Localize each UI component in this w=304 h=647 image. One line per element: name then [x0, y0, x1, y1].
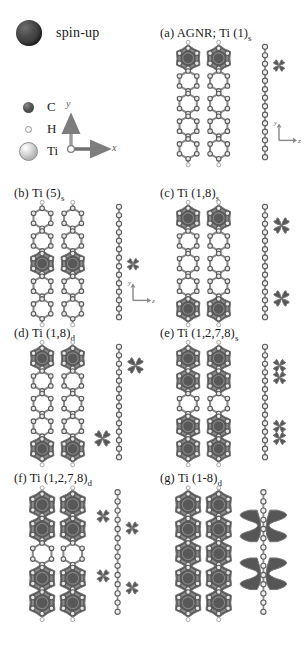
- panel-c-body: [160, 202, 300, 322]
- panel-f-body: [14, 487, 154, 617]
- panel-f: (f) Ti (1,2,7,8)d: [14, 471, 92, 488]
- hydrogen-label: H: [47, 121, 56, 137]
- svg-text:z: z: [297, 137, 301, 145]
- panel-c-title: (c) Ti (1,8)s: [160, 186, 219, 203]
- legend-atom-list: C H Ti: [18, 96, 58, 162]
- top-view-a: [160, 42, 238, 162]
- spin-up-label: spin-up: [56, 25, 99, 41]
- carbon-sphere-icon: [23, 102, 34, 113]
- panel-b: (b) Ti (5)s yz: [14, 186, 64, 203]
- legend-spin-up: spin-up: [16, 20, 99, 46]
- side-view-b: yz: [104, 202, 154, 322]
- panel-a-body: yz: [160, 42, 300, 162]
- axes-indicator-main: y x: [62, 100, 124, 162]
- top-view-f: [14, 487, 92, 617]
- panel-c-views: [160, 202, 300, 322]
- svg-text:y: y: [127, 279, 132, 287]
- panel-e: (e) Ti (1,2,7,8)s: [160, 326, 239, 343]
- legend-atom-titanium: Ti: [18, 140, 58, 162]
- figure-canvas: spin-up C H Ti y x: [0, 0, 304, 647]
- top-view-g: [160, 487, 238, 617]
- panel-d-body: [14, 342, 154, 462]
- carbon-label: C: [47, 99, 56, 115]
- svg-text:y: y: [273, 119, 278, 127]
- panel-g-body: [160, 487, 304, 617]
- spin-up-sphere-icon: [16, 20, 42, 46]
- side-view-d: [104, 342, 154, 462]
- panel-f-title: (f) Ti (1,2,7,8)d: [14, 471, 92, 488]
- panel-d-views: [14, 342, 154, 462]
- top-view-d: [14, 342, 92, 462]
- hydrogen-sphere-icon: [25, 126, 32, 133]
- panel-d: (d) Ti (1,8)d: [14, 326, 75, 343]
- panel-f-views: [14, 487, 154, 617]
- panel-e-title: (e) Ti (1,2,7,8)s: [160, 326, 239, 343]
- top-view-c: [160, 202, 238, 322]
- side-view-a: yz: [250, 42, 300, 162]
- panel-b-views: yz: [14, 202, 154, 322]
- panel-c: (c) Ti (1,8)s: [160, 186, 219, 203]
- svg-text:z: z: [151, 297, 155, 305]
- panel-e-views: [160, 342, 300, 462]
- titanium-sphere-icon: [19, 142, 38, 161]
- legend-atom-carbon: C: [18, 96, 58, 118]
- side-view-g: [246, 487, 304, 617]
- top-view-b: [14, 202, 92, 322]
- panel-g-views: [160, 487, 304, 617]
- legend-atom-hydrogen: H: [18, 118, 58, 140]
- panel-a-views: yz: [160, 42, 300, 162]
- side-view-e: [250, 342, 300, 462]
- axis-label-x-main: x: [112, 142, 116, 153]
- panel-b-title: (b) Ti (5)s: [14, 186, 64, 203]
- panel-g: (g) Ti (1-8)d: [160, 471, 222, 488]
- panel-b-body: yz: [14, 202, 154, 322]
- side-view-c: [250, 202, 300, 322]
- panel-g-title: (g) Ti (1-8)d: [160, 471, 222, 488]
- panel-e-body: [160, 342, 300, 462]
- panel-d-title: (d) Ti (1,8)d: [14, 326, 75, 343]
- axis-label-y-main: y: [66, 98, 70, 109]
- titanium-label: Ti: [47, 143, 58, 159]
- side-view-f: [102, 487, 154, 617]
- panel-a-title: (a) AGNR; Ti (1)s: [160, 26, 252, 43]
- panel-a: (a) AGNR; Ti (1)s yz: [160, 26, 252, 43]
- top-view-e: [160, 342, 238, 462]
